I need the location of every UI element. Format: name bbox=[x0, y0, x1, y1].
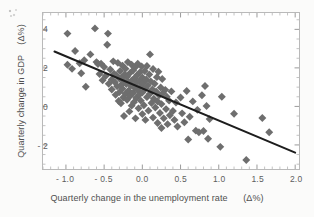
data-point bbox=[164, 120, 172, 128]
data-point bbox=[167, 87, 175, 95]
y-tick-label: 4 bbox=[43, 24, 48, 34]
x-tick-label: 0.0 bbox=[136, 174, 148, 184]
data-point bbox=[174, 122, 182, 130]
data-point bbox=[180, 118, 188, 126]
data-point bbox=[183, 87, 191, 95]
data-point bbox=[230, 110, 238, 118]
figure-canvas: - 1.0- 0.50.00.51.01.52.0 - 2024 Quarter… bbox=[0, 0, 314, 217]
data-point bbox=[265, 128, 273, 136]
data-point bbox=[82, 83, 90, 91]
data-point bbox=[198, 91, 206, 99]
y-tick-label: 0 bbox=[43, 102, 48, 112]
x-tick-label: 1.5 bbox=[251, 174, 263, 184]
data-point bbox=[201, 82, 209, 90]
data-point bbox=[71, 47, 79, 55]
data-point bbox=[103, 41, 111, 49]
data-point bbox=[120, 112, 128, 120]
x-tick-label: 2.0 bbox=[290, 174, 302, 184]
data-point bbox=[77, 69, 85, 77]
y-axis-title-wrapper: Quarterly change in GDP (Δ%) bbox=[16, 1, 32, 181]
data-point-group bbox=[63, 24, 273, 163]
data-point bbox=[149, 114, 157, 122]
plot-area bbox=[42, 12, 300, 170]
y-axis-title: Quarterly change in GDP (Δ%) bbox=[16, 1, 26, 181]
data-point bbox=[258, 114, 266, 122]
scatter-plot-svg bbox=[43, 13, 299, 169]
y-tick-label: - 2 bbox=[37, 141, 48, 151]
data-point bbox=[63, 30, 71, 38]
data-point bbox=[242, 156, 250, 164]
x-tick-label: - 0.5 bbox=[95, 174, 113, 184]
data-point bbox=[91, 24, 99, 32]
data-point bbox=[218, 93, 226, 101]
x-tick-label: 1.0 bbox=[213, 174, 225, 184]
data-point bbox=[203, 102, 211, 110]
data-point bbox=[146, 50, 154, 58]
data-point bbox=[216, 143, 224, 151]
data-point bbox=[204, 135, 212, 143]
regression-trendline bbox=[54, 52, 295, 153]
data-point bbox=[104, 30, 112, 38]
x-tick-label: - 1.0 bbox=[56, 174, 74, 184]
data-point bbox=[186, 113, 194, 121]
data-point bbox=[177, 94, 185, 102]
data-point bbox=[131, 114, 139, 122]
data-point bbox=[184, 136, 192, 144]
data-point bbox=[162, 105, 170, 113]
x-axis-title: Quarterly change in the unemployment rat… bbox=[0, 193, 314, 203]
data-point bbox=[144, 107, 152, 115]
x-tick-label: 0.5 bbox=[174, 174, 186, 184]
data-point bbox=[178, 109, 186, 117]
data-point bbox=[189, 97, 197, 105]
y-tick-label: 2 bbox=[43, 63, 48, 73]
data-point bbox=[86, 50, 94, 58]
